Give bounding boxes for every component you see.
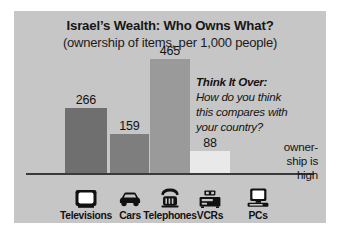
think-it-over-line-3: your country? xyxy=(196,119,322,134)
bar-cars xyxy=(110,134,149,173)
bar-televisions xyxy=(65,108,107,173)
category-pcs: PCs xyxy=(218,185,298,221)
bar-telephones xyxy=(150,59,190,173)
ownership-high-line-2: ship is xyxy=(222,154,318,168)
chart-figure: Israel’s Wealth: Who Owns What? (ownersh… xyxy=(14,11,326,223)
think-it-over-heading: Think It Over: xyxy=(196,74,322,89)
think-it-over-line-2: this compares with xyxy=(196,104,322,119)
think-it-over-line-1: How do you think xyxy=(196,89,322,104)
pc-icon xyxy=(218,185,298,209)
category-label-pcs: PCs xyxy=(218,210,298,221)
bar-value-televisions: 266 xyxy=(65,93,107,107)
bar-value-telephones: 465 xyxy=(150,44,190,58)
think-it-over-callout: Think It Over: How do you think this com… xyxy=(196,74,322,134)
ownership-high-line-1: owner- xyxy=(222,140,318,154)
category-axis: Televisions Cars xyxy=(26,175,314,221)
bar-value-cars: 159 xyxy=(110,119,149,133)
